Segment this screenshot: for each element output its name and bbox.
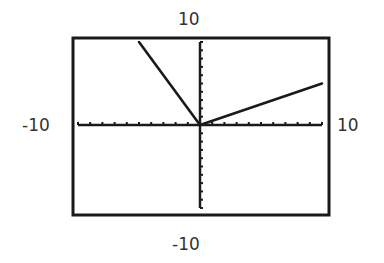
data-series — [139, 42, 322, 125]
series-line-1 — [200, 84, 322, 126]
series-line-0 — [139, 42, 200, 125]
graph-screen — [0, 0, 384, 263]
